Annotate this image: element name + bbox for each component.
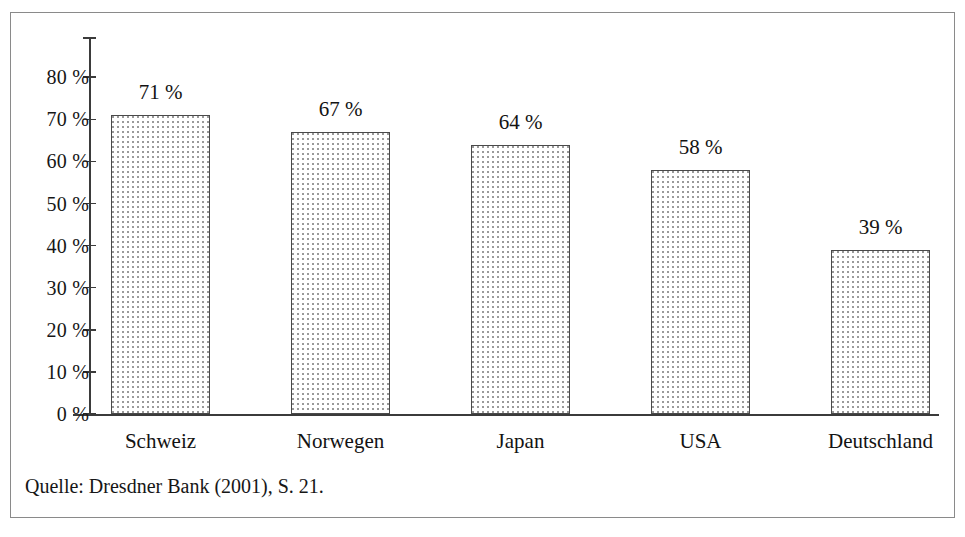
bar-schweiz	[111, 115, 210, 414]
category-label-schweiz: Schweiz	[66, 430, 255, 453]
y-axis-label: 40 %	[21, 236, 89, 256]
y-axis-label: 0 %	[21, 404, 89, 424]
bar-value-label: 39 %	[806, 217, 955, 238]
y-axis-label: 70 %	[21, 109, 89, 129]
y-axis-label: 60 %	[21, 151, 89, 171]
bar-chart: 0 %10 %20 %30 %40 %50 %60 %70 %80 % 71 %…	[11, 13, 956, 519]
source-note: Quelle: Dresdner Bank (2001), S. 21.	[25, 475, 324, 497]
category-label-japan: Japan	[426, 430, 615, 453]
category-label-usa: USA	[606, 430, 795, 453]
category-label-norwegen: Norwegen	[246, 430, 435, 453]
y-axis-top-cap	[83, 37, 96, 39]
y-axis-label: 80 %	[21, 67, 89, 87]
y-axis-label: 50 %	[21, 194, 89, 214]
bar-usa	[651, 170, 750, 414]
bar-value-label: 58 %	[626, 137, 775, 158]
bar-japan	[471, 145, 570, 414]
bar-value-label: 71 %	[86, 82, 235, 103]
y-axis-label: 30 %	[21, 278, 89, 298]
bar-norwegen	[291, 132, 390, 414]
bar-value-label: 67 %	[266, 99, 415, 120]
bar-deutschland	[831, 250, 930, 414]
y-axis-label: 20 %	[21, 320, 89, 340]
category-label-deutschland: Deutschland	[786, 430, 965, 453]
x-axis-line	[73, 414, 939, 416]
bar-value-label: 64 %	[446, 112, 595, 133]
figure-frame: 0 %10 %20 %30 %40 %50 %60 %70 %80 % 71 %…	[10, 12, 955, 518]
y-axis-label: 10 %	[21, 362, 89, 382]
